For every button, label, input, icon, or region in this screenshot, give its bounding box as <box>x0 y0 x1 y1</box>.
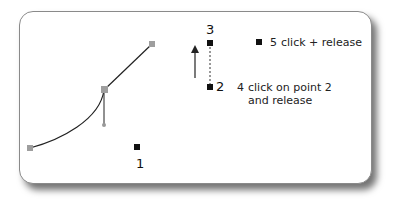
step-4-number: 4 <box>237 81 244 94</box>
point-1-marker <box>134 144 140 150</box>
handle-point <box>102 123 106 127</box>
straight-segment <box>104 44 152 90</box>
point-5-marker <box>256 39 262 45</box>
point-2-label: 2 <box>216 79 224 94</box>
point-2-marker <box>207 84 213 90</box>
bezier-path-diagram <box>0 0 396 200</box>
step-5-text: click + release <box>281 36 362 49</box>
anchor-left <box>27 145 33 151</box>
step-4-text-line1: click on point 2 <box>248 81 332 94</box>
step-5-number: 5 <box>270 36 277 49</box>
point-3-label: 3 <box>206 22 214 37</box>
anchor-middle <box>101 86 108 93</box>
point-3-marker <box>207 40 213 46</box>
anchor-top <box>149 41 155 47</box>
point-1-label: 1 <box>136 156 144 171</box>
up-arrow-head <box>191 45 199 53</box>
bezier-curve <box>30 90 104 148</box>
step-4-text-line2: and release <box>248 94 312 107</box>
